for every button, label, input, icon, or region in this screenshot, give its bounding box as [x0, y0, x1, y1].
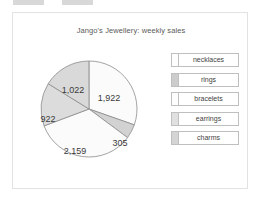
chrome-bar-left: [13, 0, 44, 5]
pie-value-label-necklaces: 1,922: [98, 93, 121, 103]
legend-label-rings: rings: [179, 74, 238, 86]
legend-label-charms: charms: [179, 132, 238, 144]
chart-title: Jango's Jewellery: weekly sales: [13, 26, 249, 35]
legend-item-bracelets[interactable]: bracelets: [171, 92, 239, 106]
pie-value-label-bracelets: 2,159: [64, 146, 87, 156]
chart-card: Jango's Jewellery: weekly sales 1,922305…: [12, 12, 248, 189]
legend-swatch-necklaces: [172, 54, 179, 66]
pie-value-label-charms: 1,022: [62, 85, 85, 95]
legend-item-earrings[interactable]: earrings: [171, 112, 239, 126]
legend-swatch-charms: [172, 132, 179, 144]
legend-label-necklaces: necklaces: [179, 54, 238, 66]
legend-label-earrings: earrings: [179, 113, 238, 125]
legend-item-rings[interactable]: rings: [171, 73, 239, 87]
pie-svg: 1,9223052,1599221,022: [27, 47, 151, 171]
chrome-bar-right: [62, 0, 93, 5]
top-chrome-strip: [0, 0, 261, 10]
legend-item-necklaces[interactable]: necklaces: [171, 53, 239, 67]
pie-value-label-earrings: 922: [40, 114, 55, 124]
legend-swatch-rings: [172, 74, 179, 86]
legend-label-bracelets: bracelets: [179, 93, 238, 105]
pie-value-label-rings: 305: [112, 138, 127, 148]
chart-legend: necklaces rings bracelets earrings charm…: [171, 53, 239, 151]
legend-swatch-earrings: [172, 113, 179, 125]
legend-item-charms[interactable]: charms: [171, 131, 239, 145]
pie-chart: 1,9223052,1599221,022: [27, 47, 151, 171]
legend-swatch-bracelets: [172, 93, 179, 105]
